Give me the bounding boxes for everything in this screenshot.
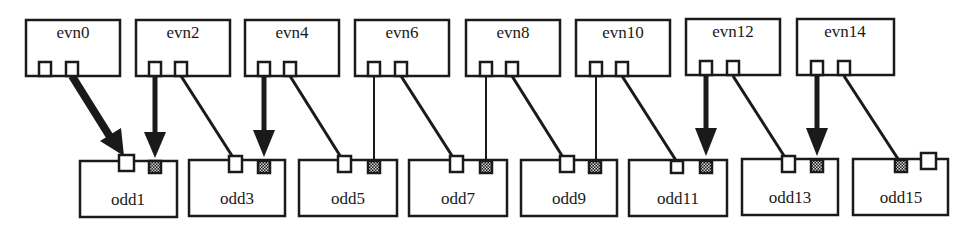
port-left[interactable] [480, 62, 492, 76]
node-label: odd13 [769, 188, 812, 207]
port-open[interactable] [560, 156, 574, 172]
node-evn14[interactable]: evn14 [797, 19, 894, 75]
port-left[interactable] [258, 62, 270, 76]
node-evn4[interactable]: evn4 [245, 20, 339, 76]
port-left[interactable] [149, 62, 161, 76]
port-open[interactable] [450, 156, 463, 172]
node-evn6[interactable]: evn6 [355, 20, 449, 76]
bottom-row: odd1 odd3 odd5 odd7 odd9 [80, 153, 948, 217]
port-right[interactable] [66, 62, 78, 76]
node-label: evn4 [275, 23, 309, 42]
node-odd9[interactable]: odd9 [521, 156, 617, 216]
port-right[interactable] [175, 62, 187, 76]
node-label: odd9 [552, 189, 586, 208]
port-left[interactable] [39, 62, 51, 76]
port-filled[interactable] [368, 161, 380, 173]
node-odd15[interactable]: odd15 [853, 153, 948, 215]
node-odd5[interactable]: odd5 [299, 156, 397, 216]
node-evn2[interactable]: evn2 [136, 20, 230, 76]
node-label: evn14 [824, 22, 866, 41]
node-label: odd5 [331, 189, 365, 208]
node-label: evn8 [496, 23, 529, 42]
port-left[interactable] [368, 62, 380, 76]
edge-evn2-odd1 [144, 76, 166, 158]
edge-evn12-odd13 [733, 76, 788, 162]
node-label: odd11 [657, 189, 699, 208]
port-open[interactable] [229, 156, 242, 172]
node-label: odd1 [111, 190, 145, 209]
node-evn8[interactable]: evn8 [466, 20, 560, 76]
node-odd13[interactable]: odd13 [742, 156, 838, 215]
port-right[interactable] [506, 62, 518, 76]
node-label: odd3 [220, 189, 254, 208]
top-row: evn0 evn2 evn4 evn6 evn8 [26, 19, 894, 76]
edge-evn2-odd3 [181, 76, 236, 162]
port-left[interactable] [700, 61, 712, 75]
node-label: odd7 [441, 189, 476, 208]
port-open[interactable] [782, 156, 795, 172]
port-right[interactable] [395, 62, 407, 76]
port-right[interactable] [727, 61, 739, 75]
edges [72, 76, 900, 162]
port-open[interactable] [671, 161, 683, 173]
node-label: evn6 [385, 23, 418, 42]
port-filled[interactable] [811, 160, 823, 172]
edge-evn12-odd11 [695, 76, 717, 156]
port-open[interactable] [338, 156, 351, 172]
port-right[interactable] [616, 62, 628, 76]
node-odd7[interactable]: odd7 [409, 156, 507, 216]
port-left[interactable] [590, 62, 602, 76]
node-label: evn12 [712, 22, 754, 41]
port-open[interactable] [119, 155, 134, 171]
edge-evn4-odd5 [290, 76, 344, 162]
port-open[interactable] [921, 153, 936, 169]
edge-evn14-odd15 [844, 76, 900, 162]
edge-evn6-odd7 [401, 76, 456, 162]
edge-evn4-odd3 [253, 76, 275, 157]
port-filled[interactable] [258, 161, 270, 173]
node-odd11[interactable]: odd11 [629, 160, 727, 216]
node-odd3[interactable]: odd3 [189, 156, 285, 216]
port-filled[interactable] [480, 161, 492, 173]
port-filled[interactable] [149, 161, 161, 173]
port-left[interactable] [811, 61, 823, 75]
node-label: odd15 [880, 188, 923, 207]
port-right[interactable] [284, 62, 296, 76]
node-evn10[interactable]: evn10 [576, 20, 670, 76]
port-right[interactable] [838, 61, 850, 75]
port-filled[interactable] [589, 161, 601, 173]
edge-evn14-odd13 [806, 76, 828, 156]
edge-evn0-odd1 [72, 76, 124, 156]
node-label: evn2 [166, 23, 199, 42]
node-odd1[interactable]: odd1 [80, 155, 177, 217]
node-label: evn0 [56, 23, 89, 42]
node-evn0[interactable]: evn0 [26, 20, 120, 76]
process-diagram: evn0 evn2 evn4 evn6 evn8 [0, 0, 975, 230]
node-evn12[interactable]: evn12 [686, 19, 780, 75]
edge-evn8-odd9 [512, 76, 566, 162]
node-label: evn10 [602, 23, 644, 42]
port-filled[interactable] [895, 160, 907, 172]
port-filled[interactable] [700, 161, 712, 173]
edge-evn10-odd11 [622, 76, 677, 162]
